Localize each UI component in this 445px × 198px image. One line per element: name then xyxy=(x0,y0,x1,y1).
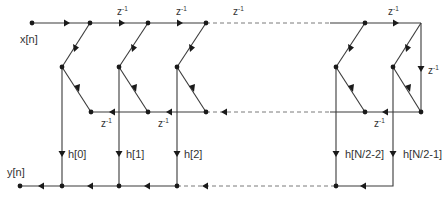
arrow-down-left-icon xyxy=(405,44,411,52)
output-label: y[n] xyxy=(7,166,25,178)
arrow-left-icon xyxy=(382,109,388,116)
delay-label: z-1 xyxy=(233,5,244,17)
coefficient-label: h[N/2-1] xyxy=(403,148,442,160)
arrow-down-icon xyxy=(333,151,340,157)
delay-label: z-1 xyxy=(388,5,399,17)
fir-filter-diagram: x[n] y[n] z-1 z-1 z-1 z-1 z-1 z-1 z-1 z-… xyxy=(0,0,445,198)
tap-node xyxy=(146,21,151,26)
tap-node xyxy=(204,21,209,26)
coefficient-label: h[N/2-2] xyxy=(345,148,384,160)
arrow-left-icon xyxy=(144,183,150,190)
labels: x[n] y[n] z-1 z-1 z-1 z-1 z-1 z-1 z-1 z-… xyxy=(7,5,442,178)
return-node xyxy=(363,110,368,115)
delay-label: z-1 xyxy=(176,5,187,17)
delay-label: z-1 xyxy=(374,117,385,129)
arrow-right-icon xyxy=(393,20,399,27)
arrow-left-icon xyxy=(166,109,172,116)
delay-label: z-1 xyxy=(101,117,112,129)
arrow-left-icon xyxy=(109,109,115,116)
sum-node xyxy=(391,65,396,70)
arrow-right-icon xyxy=(64,20,70,27)
arrow-right-icon xyxy=(119,20,125,27)
sum-node xyxy=(175,65,180,70)
coefficient-label: h[1] xyxy=(126,148,144,160)
tap-node xyxy=(363,21,368,26)
accumulate-node xyxy=(117,184,122,189)
arrow-left-icon xyxy=(87,183,93,190)
arrow-down-icon xyxy=(418,66,425,72)
sum-node xyxy=(334,65,339,70)
delay-label: z-1 xyxy=(117,5,128,17)
coefficient-branches xyxy=(59,67,397,186)
coefficient-label: h[0] xyxy=(68,148,86,160)
output-sum-line xyxy=(20,183,366,190)
arrow-left-icon xyxy=(360,183,366,190)
accumulate-node xyxy=(175,184,180,189)
return-node xyxy=(419,110,424,115)
delay-label: z-1 xyxy=(158,117,169,129)
arrow-left-icon xyxy=(221,109,227,116)
arrow-down-icon xyxy=(390,151,397,157)
sum-node xyxy=(117,65,122,70)
arrow-down-icon xyxy=(116,151,123,157)
accumulate-node xyxy=(60,184,65,189)
arrow-down-icon xyxy=(59,151,66,157)
return-node xyxy=(146,110,151,115)
delay-label: z-1 xyxy=(428,64,439,76)
sum-node xyxy=(60,65,65,70)
arrow-left-icon xyxy=(38,183,44,190)
output-node xyxy=(18,184,23,189)
arrow-left-icon xyxy=(202,183,208,190)
arrow-down-icon xyxy=(174,151,181,157)
tap-node xyxy=(88,21,93,26)
coefficient-label: h[2] xyxy=(184,148,202,160)
return-node xyxy=(204,110,209,115)
right-delay-line xyxy=(418,23,425,112)
accumulate-node xyxy=(334,184,339,189)
input-label: x[n] xyxy=(20,33,38,45)
input-node xyxy=(30,21,35,26)
return-node xyxy=(89,110,94,115)
return-delay-line xyxy=(91,109,421,116)
arrow-right-icon xyxy=(177,20,183,27)
diagonal-branches xyxy=(62,23,421,112)
nodes xyxy=(18,21,424,189)
